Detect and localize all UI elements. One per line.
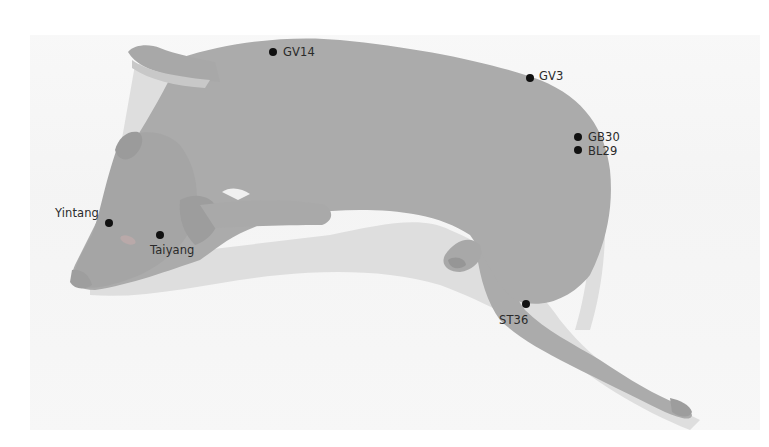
point-gv3-label: GV3 [539,69,563,83]
point-bl29-label: BL29 [588,144,617,158]
point-gv14-label: GV14 [283,45,315,59]
point-st36-label: ST36 [499,313,528,327]
dog-illustration [0,0,769,447]
point-yintang-dot [105,219,113,227]
point-taiyang-label: Taiyang [150,243,195,257]
point-st36-dot [522,300,530,308]
diagram-canvas: GV14 GV3 GB30 BL29 Yintang Taiyang ST36 [0,0,769,447]
point-bl29-dot [574,146,582,154]
point-yintang-label: Yintang [55,206,99,220]
point-gv14-dot [269,48,277,56]
point-gv3-dot [526,74,534,82]
point-gb30-label: GB30 [588,130,620,144]
point-taiyang-dot [156,231,164,239]
front-leg-folded [200,200,331,228]
point-gb30-dot [574,133,582,141]
